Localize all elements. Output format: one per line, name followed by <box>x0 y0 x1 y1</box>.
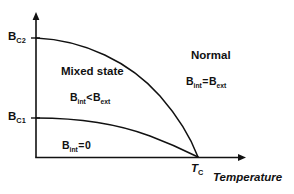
mixed-eq-rhs-sub: ext <box>101 98 111 105</box>
mixed-eq-lhs-main: B <box>70 91 78 103</box>
normal-eq-rhs-main: B <box>209 75 217 87</box>
bc1-sub: C1 <box>16 116 25 125</box>
tc-main: T <box>191 162 198 174</box>
curve-bc2 <box>36 38 198 157</box>
phase-diagram-figure: BC2 BC1 Mixed state Bint<Bext Bint=0 Nor… <box>0 0 294 194</box>
mixed-eq-operator: < <box>86 91 93 103</box>
x-axis-tick-label-tc: TC <box>191 163 203 175</box>
region-equation-normal-state: Bint=Bext <box>186 76 226 87</box>
meissner-eq-operator: = <box>78 139 85 151</box>
region-label-mixed-state: Mixed state <box>61 66 124 78</box>
meissner-eq-lhs-sub: int <box>70 146 78 153</box>
meissner-eq-rhs-main: 0 <box>85 139 91 151</box>
curve-bc1 <box>36 118 198 157</box>
meissner-eq-lhs-main: B <box>62 139 70 151</box>
y-axis-arrow-icon <box>33 12 40 20</box>
region-equation-mixed-state: Bint<Bext <box>70 92 110 103</box>
tc-sub: C <box>198 168 203 177</box>
region-label-normal-state: Normal <box>191 50 231 62</box>
mixed-eq-lhs-sub: int <box>78 98 86 105</box>
mixed-eq-rhs-main: B <box>93 91 101 103</box>
normal-eq-rhs-sub: ext <box>217 82 227 89</box>
phase-diagram-canvas <box>0 0 294 194</box>
region-equation-meissner-state: Bint=0 <box>62 140 91 151</box>
normal-eq-operator: = <box>202 75 209 87</box>
x-axis-arrow-icon <box>238 154 246 161</box>
bc2-sub: C2 <box>16 36 25 45</box>
y-axis-tick-label-bc2: BC2 <box>8 31 26 43</box>
normal-eq-lhs-sub: int <box>194 82 202 89</box>
normal-eq-lhs-main: B <box>186 75 194 87</box>
x-axis-title: Temperature <box>213 172 282 184</box>
y-axis-group <box>33 12 40 158</box>
y-axis-tick-label-bc1: BC1 <box>8 111 26 123</box>
x-axis-group <box>35 154 246 161</box>
